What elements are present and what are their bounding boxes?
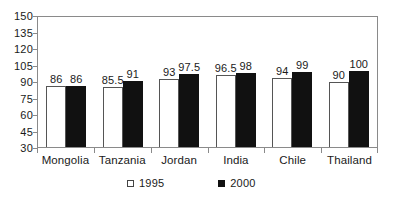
chart-legend: 1995 2000 xyxy=(37,175,378,191)
bar-2000[interactable]: 91 xyxy=(123,81,143,147)
y-tick-label: 105 xyxy=(0,60,33,71)
bar-pair: 94 99 xyxy=(272,17,312,147)
bar-pair: 90 100 xyxy=(329,17,369,147)
y-tick-label: 90 xyxy=(0,77,33,88)
bar-pair: 86 86 xyxy=(46,17,86,147)
bar-value-label: 94 xyxy=(276,66,288,77)
bar-1995[interactable]: 94 xyxy=(272,78,292,147)
bar-group: 93 97.5 xyxy=(151,17,208,147)
x-category-label: India xyxy=(207,153,264,171)
bar-1995[interactable]: 86 xyxy=(46,86,66,147)
bar-1995[interactable]: 93 xyxy=(159,79,179,147)
legend-item-2000[interactable]: 2000 xyxy=(218,178,255,189)
bar-value-label: 86 xyxy=(50,74,62,85)
x-category-label: Thailand xyxy=(321,153,378,171)
bar-value-label: 85.5 xyxy=(102,75,124,86)
y-tick-label: 150 xyxy=(0,11,33,22)
bar-2000[interactable]: 100 xyxy=(349,71,369,147)
bar-group: 90 100 xyxy=(321,17,378,147)
x-category-label: Tanzania xyxy=(94,153,151,171)
y-tick-label: 45 xyxy=(0,126,33,137)
x-axis-labels: Mongolia Tanzania Jordan India Chile Tha… xyxy=(37,153,378,171)
y-tick-label: 75 xyxy=(0,93,33,104)
bar-2000[interactable]: 98 xyxy=(236,73,256,147)
y-tick-label: 135 xyxy=(0,27,33,38)
legend-label: 1995 xyxy=(139,178,164,189)
legend-label: 2000 xyxy=(230,178,255,189)
bar-value-label: 96.5 xyxy=(215,63,237,74)
bar-value-label: 100 xyxy=(349,59,368,70)
bar-2000[interactable]: 99 xyxy=(292,72,312,147)
open-square-icon xyxy=(127,180,134,187)
bar-pair: 85.5 91 xyxy=(103,17,143,147)
bar-value-label: 91 xyxy=(127,69,139,80)
bar-group: 94 99 xyxy=(264,17,321,147)
bar-pair: 96.5 98 xyxy=(216,17,256,147)
y-tick-label: 60 xyxy=(0,110,33,121)
filled-square-icon xyxy=(218,180,225,187)
x-category-label: Mongolia xyxy=(37,153,94,171)
bar-value-label: 97.5 xyxy=(178,62,200,73)
bar-pair: 93 97.5 xyxy=(159,17,199,147)
y-tick-label: 120 xyxy=(0,44,33,55)
y-tick-label: 30 xyxy=(0,143,33,154)
bar-2000[interactable]: 97.5 xyxy=(179,74,199,147)
x-category-label: Chile xyxy=(264,153,321,171)
bar-group: 96.5 98 xyxy=(208,17,265,147)
y-axis: 150 135 120 105 90 75 60 45 30 xyxy=(0,16,33,148)
bar-value-label: 86 xyxy=(70,74,82,85)
bar-value-label: 93 xyxy=(163,67,175,78)
bar-group: 86 86 xyxy=(38,17,95,147)
x-category-label: Jordan xyxy=(151,153,208,171)
legend-item-1995[interactable]: 1995 xyxy=(127,178,164,189)
bar-groups: 86 86 85.5 91 93 xyxy=(38,17,377,147)
bar-1995[interactable]: 85.5 xyxy=(103,87,123,147)
bar-2000[interactable]: 86 xyxy=(66,86,86,147)
bar-1995[interactable]: 90 xyxy=(329,82,349,147)
bar-group: 85.5 91 xyxy=(95,17,152,147)
bar-value-label: 98 xyxy=(240,61,252,72)
bar-chart: 150 135 120 105 90 75 60 45 30 86 86 xyxy=(0,0,393,200)
bar-value-label: 99 xyxy=(296,60,308,71)
bar-1995[interactable]: 96.5 xyxy=(216,75,236,147)
bar-value-label: 90 xyxy=(333,70,345,81)
